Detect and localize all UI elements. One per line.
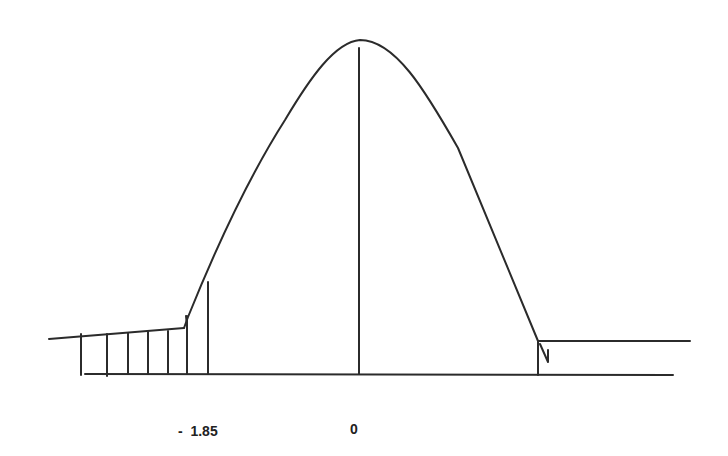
bell-curve bbox=[184, 40, 538, 341]
right-hook-mark bbox=[540, 344, 548, 362]
baseline-axis bbox=[85, 374, 673, 375]
mean-label: 0 bbox=[350, 421, 358, 437]
left-tail-hatching bbox=[81, 316, 187, 376]
bell-curve-diagram bbox=[0, 0, 728, 456]
left-tail-line bbox=[49, 328, 184, 339]
critical-value-label: - 1.85 bbox=[178, 423, 218, 439]
